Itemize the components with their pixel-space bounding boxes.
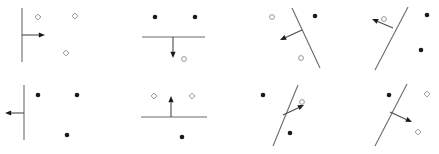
panel-7 <box>261 85 305 146</box>
direction-arrow-head <box>5 110 11 115</box>
filled-dot-marker <box>75 93 80 98</box>
direction-arrow-head <box>39 32 45 37</box>
filled-dot-marker <box>36 93 41 98</box>
hollow-circle-marker <box>182 57 187 62</box>
filled-dot-marker <box>419 48 424 53</box>
filled-dot-marker <box>261 93 266 98</box>
hollow-diamond-marker <box>35 14 41 20</box>
filled-dot-marker <box>288 131 293 136</box>
hollow-circle-marker <box>299 56 304 61</box>
decision-boundary-line <box>273 85 298 146</box>
filled-dot-marker <box>193 15 198 20</box>
direction-arrow-shaft <box>283 108 298 115</box>
direction-arrow-shaft <box>286 30 302 37</box>
panels-layer <box>5 7 430 146</box>
filled-dot-marker <box>387 93 392 98</box>
figure-container <box>0 0 439 154</box>
hollow-diamond-marker <box>151 93 157 99</box>
hollow-diamond-marker <box>415 129 421 135</box>
filled-dot-marker <box>425 13 430 18</box>
panel-1 <box>22 8 78 62</box>
panel-2 <box>142 15 205 62</box>
hollow-circle-marker <box>382 17 387 22</box>
panel-6 <box>141 93 207 139</box>
hollow-diamond-marker <box>72 13 78 19</box>
direction-arrow-head <box>168 96 173 102</box>
filled-dot-marker <box>65 133 70 138</box>
hollow-diamond-marker <box>424 91 430 97</box>
panel-4 <box>372 7 429 70</box>
direction-arrow-shaft <box>378 21 393 28</box>
panel-3 <box>270 8 320 68</box>
decision-boundary-line <box>375 84 407 146</box>
panel-8 <box>375 84 430 146</box>
hollow-diamond-marker <box>63 50 69 56</box>
panel-5 <box>5 85 79 140</box>
direction-arrow-head <box>170 52 175 58</box>
filled-dot-marker <box>180 135 185 140</box>
decision-boundary-line <box>375 7 408 70</box>
direction-arrow-shaft <box>390 112 406 119</box>
panel-grid-svg <box>0 0 439 154</box>
hollow-circle-marker <box>300 100 305 105</box>
filled-dot-marker <box>153 15 158 20</box>
hollow-circle-marker <box>270 15 275 20</box>
hollow-diamond-marker <box>189 93 195 99</box>
filled-dot-marker <box>313 14 318 19</box>
